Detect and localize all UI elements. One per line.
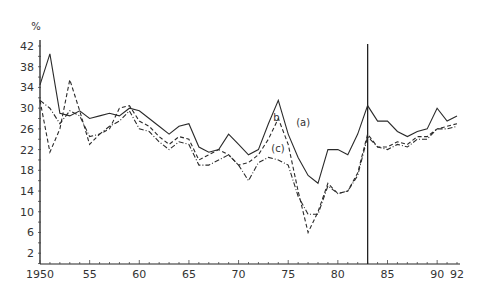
x-tick-label: 70 [232, 268, 246, 281]
y-tick-label: 34 [20, 81, 34, 94]
x-tick-label: 85 [381, 268, 395, 281]
series-line-c [40, 100, 457, 214]
y-tick-label: 14 [20, 185, 34, 198]
y-tick-label: 30 [20, 102, 34, 115]
axes: %261014182226303438421950556065707580859… [20, 21, 464, 281]
y-tick-label: 18 [20, 164, 34, 177]
y-tick-label: 10 [20, 206, 34, 219]
y-tick-label: 26 [20, 123, 34, 136]
series-lines [40, 54, 457, 233]
x-tick-label: 75 [281, 268, 295, 281]
y-axis-label: % [31, 21, 41, 32]
x-tick-label: 55 [83, 268, 97, 281]
series-label: (a) [296, 117, 310, 128]
x-tick-label: 80 [331, 268, 345, 281]
x-tick-label: 1950 [26, 268, 54, 281]
x-tick-label: 60 [132, 268, 146, 281]
y-tick-label: 22 [20, 144, 34, 157]
y-tick-label: 6 [27, 226, 34, 239]
x-tick-label: 92 [450, 268, 464, 281]
series-line-b [40, 80, 457, 233]
y-tick-label: 38 [20, 61, 34, 74]
series-label: b [273, 112, 279, 123]
line-chart: %261014182226303438421950556065707580859… [0, 0, 484, 294]
y-tick-label: 42 [20, 40, 34, 53]
annotations: (a)b(c) [271, 112, 310, 154]
x-tick-label: 65 [182, 268, 196, 281]
series-label: (c) [271, 143, 284, 154]
x-tick-label: 90 [430, 268, 444, 281]
series-line-a [40, 54, 457, 184]
y-tick-label: 2 [27, 247, 34, 260]
